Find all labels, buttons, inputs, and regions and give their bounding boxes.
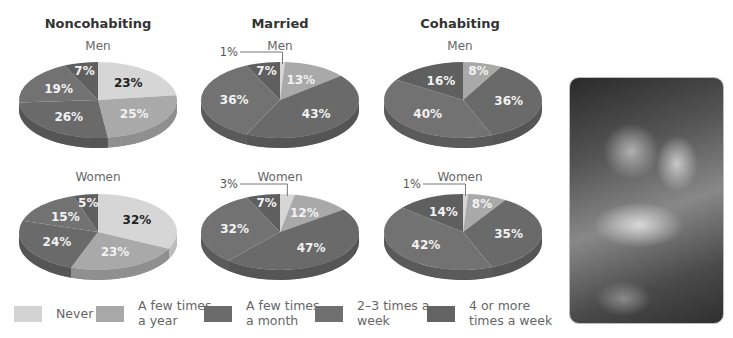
- subtitle-women: Women: [8, 170, 188, 184]
- slice-label: 47%: [297, 241, 326, 255]
- group-title-noncohabiting: Noncohabiting: [8, 16, 188, 31]
- subtitle-men: Men: [370, 39, 550, 53]
- group-title-married: Married: [190, 16, 370, 31]
- legend-item-few-year: A few times a year: [96, 298, 216, 328]
- group-title-cohabiting: Cohabiting: [370, 16, 550, 31]
- pie-cohabiting-women: 1%8%35%42%14%: [0, 0, 1, 1]
- slice-label: 36%: [220, 93, 249, 107]
- slice-label: 32%: [123, 213, 152, 227]
- slice-label: 7%: [74, 64, 94, 78]
- slice-label: 8%: [468, 64, 488, 78]
- legend-swatch: [14, 306, 42, 322]
- slice-label: 23%: [101, 245, 130, 259]
- legend-item-2-3-week: 2–3 times a week: [315, 298, 435, 328]
- legend-label: 4 or more times a week: [469, 298, 569, 328]
- slice-label: 19%: [44, 82, 73, 96]
- slice-label: 15%: [51, 210, 80, 224]
- slice-label: 14%: [429, 205, 458, 219]
- legend-swatch: [96, 306, 124, 322]
- couple-photo: [569, 77, 724, 324]
- slice-label: 16%: [427, 74, 456, 88]
- chart-legend: Never A few times a year A few times a m…: [14, 298, 559, 332]
- slice-label: 32%: [220, 222, 249, 236]
- slice-label: 25%: [120, 107, 149, 121]
- slice-callout-label: 1%: [220, 45, 238, 59]
- subtitle-women: Women: [190, 170, 370, 184]
- subtitle-men: Men: [8, 39, 188, 53]
- slice-label: 5%: [78, 196, 98, 210]
- legend-swatch: [204, 306, 232, 322]
- legend-item-4-plus-week: 4 or more times a week: [427, 298, 569, 328]
- slice-label: 26%: [54, 110, 83, 124]
- slice-label: 35%: [494, 227, 523, 241]
- subtitle-women: Women: [370, 170, 550, 184]
- legend-label: A few times a month: [246, 298, 324, 328]
- slice-label: 7%: [257, 196, 277, 210]
- legend-item-few-month: A few times a month: [204, 298, 324, 328]
- slice-callout-label: 1%: [403, 177, 421, 191]
- slice-label: 12%: [290, 206, 319, 220]
- slice-label: 7%: [256, 64, 276, 78]
- subtitle-men: Men: [190, 39, 370, 53]
- legend-swatch: [315, 306, 343, 322]
- slice-label: 42%: [412, 238, 441, 252]
- slice-label: 24%: [43, 235, 72, 249]
- slice-label: 8%: [472, 197, 492, 211]
- slice-label: 36%: [494, 94, 523, 108]
- slice-label: 43%: [302, 107, 331, 121]
- slice-label: 23%: [114, 76, 143, 90]
- slice-label: 40%: [413, 107, 442, 121]
- slice-callout-label: 3%: [220, 177, 238, 191]
- legend-label: 2–3 times a week: [357, 298, 435, 328]
- legend-swatch: [427, 306, 455, 322]
- slice-label: 13%: [286, 73, 315, 87]
